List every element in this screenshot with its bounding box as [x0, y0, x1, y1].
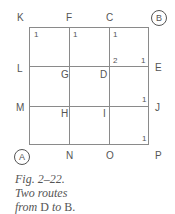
- grid-border: [29, 27, 149, 145]
- label-c: C: [106, 13, 113, 23]
- count-j: 1: [142, 96, 146, 104]
- caption-period: .: [72, 200, 75, 214]
- label-m: M: [16, 103, 24, 113]
- label-l: L: [17, 64, 23, 74]
- grid-line-vertical: [109, 27, 110, 145]
- label-o: O: [106, 151, 114, 161]
- count-c: 1: [113, 31, 117, 39]
- count-f: 1: [73, 31, 77, 39]
- grid-line-horizontal: [29, 106, 149, 107]
- label-j: J: [155, 103, 160, 113]
- label-g: G: [61, 70, 69, 80]
- caption-point-d: D: [40, 200, 49, 214]
- grid-line-vertical: [69, 27, 70, 145]
- label-i: I: [103, 109, 106, 119]
- caption-line-1: Fig. 2–22.: [15, 172, 75, 186]
- label-n: N: [66, 151, 73, 161]
- count-p: 1: [142, 135, 146, 143]
- grid-line-horizontal: [29, 66, 149, 67]
- count-e: 1: [141, 57, 145, 65]
- figure-caption: Fig. 2–22. Two routes from D to B.: [15, 172, 75, 214]
- label-k: K: [17, 13, 24, 23]
- count-d: 2: [113, 57, 117, 65]
- caption-line-3: from D to B.: [15, 200, 75, 214]
- caption-text: to: [49, 200, 64, 214]
- label-b-circled: B: [151, 10, 167, 26]
- label-p: P: [155, 151, 162, 161]
- label-e: E: [155, 63, 162, 73]
- label-h: H: [61, 109, 68, 119]
- label-d: D: [100, 70, 107, 80]
- label-f: F: [66, 13, 72, 23]
- count-k: 1: [34, 31, 38, 39]
- label-a-circled: A: [14, 149, 30, 165]
- caption-text: from: [15, 200, 40, 214]
- caption-line-2: Two routes: [15, 186, 75, 200]
